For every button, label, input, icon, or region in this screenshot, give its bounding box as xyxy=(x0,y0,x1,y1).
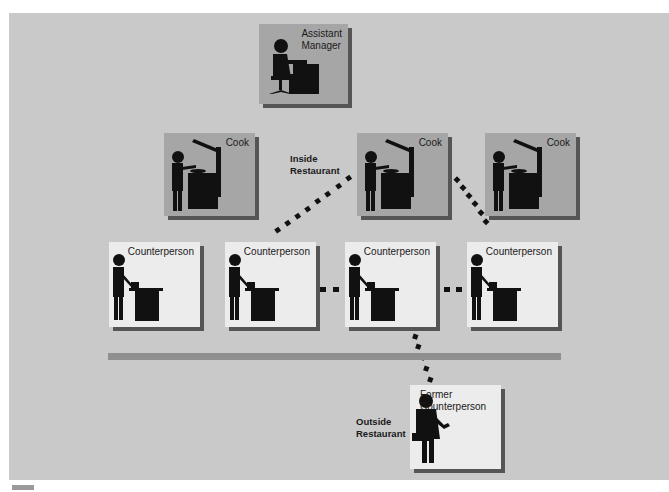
node-label: Counterperson xyxy=(128,246,194,258)
node-cook-2: Cook xyxy=(357,133,448,216)
label-line: Former xyxy=(420,389,486,401)
node-counterperson-2: Counterperson xyxy=(225,242,316,327)
node-label: Counterperson xyxy=(364,246,430,258)
label-line: Manager xyxy=(301,40,342,52)
label-line: Restaurant xyxy=(356,428,406,440)
label-line: Assistant xyxy=(301,28,342,40)
label-line: Counterperson xyxy=(420,401,486,413)
node-counterperson-3: Counterperson xyxy=(345,242,436,327)
node-former-counterperson: Former Counterperson xyxy=(410,385,501,469)
node-label: Counterperson xyxy=(486,246,552,258)
node-label: Cook xyxy=(226,137,249,149)
node-counterperson-4: Counterperson xyxy=(467,242,558,327)
label-line: Outside xyxy=(356,416,406,428)
node-label: Former Counterperson xyxy=(420,389,486,413)
node-label: Counterperson xyxy=(244,246,310,258)
node-cook-3: Cook xyxy=(485,133,576,216)
zone-label-inside: Inside Restaurant xyxy=(290,153,340,177)
label-line: Restaurant xyxy=(290,165,340,177)
restaurant-boundary-line xyxy=(108,353,561,360)
footer-mark xyxy=(12,485,34,490)
node-label: Cook xyxy=(547,137,570,149)
node-cook-1: Cook xyxy=(164,133,255,216)
label-line: Inside xyxy=(290,153,340,165)
node-label: Cook xyxy=(419,137,442,149)
node-assistant-manager: Assistant Manager xyxy=(259,24,348,104)
node-counterperson-1: Counterperson xyxy=(109,242,200,327)
zone-label-outside: Outside Restaurant xyxy=(356,416,406,440)
node-label: Assistant Manager xyxy=(301,28,342,52)
